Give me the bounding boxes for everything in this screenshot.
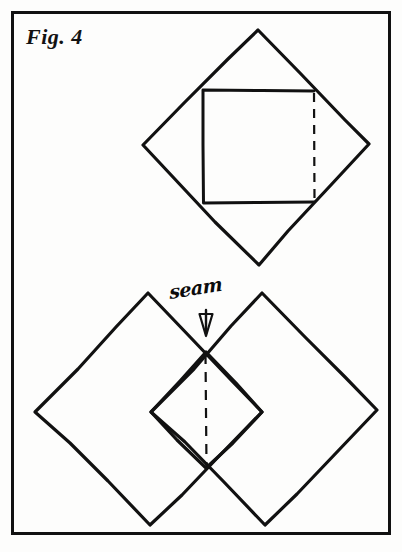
upper-diamond <box>143 30 369 265</box>
seam-dashed-line <box>206 354 207 466</box>
upper-inner-square-dashed-edge <box>314 93 315 200</box>
upper-inner-square-solid <box>203 90 314 203</box>
figure-page: Fig. 4 seam <box>0 0 402 552</box>
figure-number-label: Fig. 4 <box>26 24 83 50</box>
